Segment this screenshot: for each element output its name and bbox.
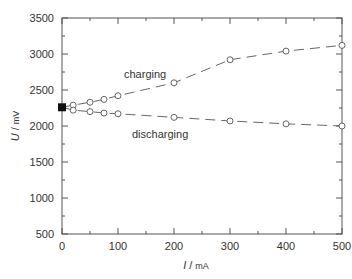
charging-marker bbox=[227, 57, 233, 63]
x-tick-label: 300 bbox=[221, 240, 239, 252]
charging-marker bbox=[87, 99, 93, 105]
discharging-marker bbox=[171, 114, 177, 120]
discharging-marker bbox=[227, 118, 233, 124]
y-axis-label: U / mV bbox=[9, 111, 21, 142]
charging-marker bbox=[283, 48, 289, 54]
plot-frame bbox=[62, 18, 342, 234]
y-tick-label: 1000 bbox=[30, 192, 54, 204]
discharging-marker bbox=[87, 109, 93, 115]
charging-marker bbox=[339, 42, 345, 48]
discharging-label: discharging bbox=[132, 128, 188, 140]
x-axis-label: I / mA bbox=[183, 259, 209, 271]
charging-marker bbox=[171, 80, 177, 86]
open-circuit-marker bbox=[58, 103, 66, 111]
discharging-marker bbox=[101, 110, 107, 116]
y-tick-label: 2500 bbox=[30, 84, 54, 96]
charging-label: charging bbox=[124, 68, 166, 80]
y-tick-label: 2000 bbox=[30, 120, 54, 132]
x-tick-label: 0 bbox=[59, 240, 65, 252]
discharging-marker bbox=[283, 121, 289, 127]
x-tick-label: 200 bbox=[165, 240, 183, 252]
charging-marker bbox=[101, 96, 107, 102]
data-series bbox=[58, 42, 345, 129]
y-tick-label: 3500 bbox=[30, 12, 54, 24]
discharging-marker bbox=[70, 107, 76, 113]
charging-marker bbox=[115, 93, 121, 99]
axis-ticks: 0100200300400500500100015002000250030003… bbox=[30, 12, 352, 252]
discharging-marker bbox=[339, 123, 345, 129]
y-tick-label: 3000 bbox=[30, 48, 54, 60]
x-tick-label: 400 bbox=[277, 240, 295, 252]
discharging-marker bbox=[115, 111, 121, 117]
y-tick-label: 1500 bbox=[30, 156, 54, 168]
y-tick-label: 500 bbox=[36, 228, 54, 240]
chart: 0100200300400500500100015002000250030003… bbox=[0, 0, 352, 279]
x-tick-label: 500 bbox=[333, 240, 351, 252]
x-tick-label: 100 bbox=[109, 240, 127, 252]
